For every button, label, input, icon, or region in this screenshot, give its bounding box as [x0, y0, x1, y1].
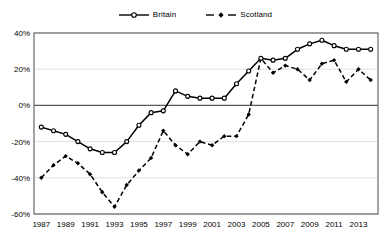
x-axis-label: 1991 — [81, 220, 99, 229]
data-point-marker — [137, 123, 141, 127]
y-axis-label: 40% — [14, 29, 30, 38]
data-point-marker — [113, 150, 117, 154]
x-axis-label: 2009 — [301, 220, 319, 229]
grid-lines — [34, 33, 378, 214]
y-axis-label: 0% — [18, 101, 30, 110]
data-point-marker — [222, 96, 226, 100]
data-point-marker — [247, 69, 251, 73]
data-point-marker — [320, 38, 324, 42]
data-point-marker — [125, 140, 129, 144]
x-axis-tick-labels: 1987198919911993199519971999200120032005… — [32, 220, 368, 229]
data-point-marker — [271, 58, 275, 62]
plot-border — [34, 33, 378, 214]
data-point-marker — [235, 82, 239, 86]
data-point-marker — [186, 94, 190, 98]
y-axis-label: 20% — [14, 65, 30, 74]
data-point-marker — [283, 56, 287, 60]
y-axis-label: -20% — [11, 138, 30, 147]
data-point-marker — [198, 96, 202, 100]
x-axis-label: 2003 — [228, 220, 246, 229]
x-axis-label: 1987 — [32, 220, 50, 229]
x-axis-label: 1995 — [130, 220, 148, 229]
data-point-marker — [356, 47, 360, 51]
data-point-marker — [308, 42, 312, 46]
x-axis-label: 2007 — [276, 220, 294, 229]
data-point-marker — [210, 143, 214, 147]
data-point-marker — [344, 47, 348, 51]
series-scotland — [39, 56, 373, 209]
x-axis-label: 1993 — [106, 220, 124, 229]
data-point-marker — [64, 132, 68, 136]
data-point-marker — [100, 150, 104, 154]
data-point-marker — [76, 140, 80, 144]
data-point-marker — [369, 47, 373, 51]
data-point-marker — [149, 111, 153, 115]
x-axis-label: 2001 — [203, 220, 221, 229]
data-point-marker — [332, 44, 336, 48]
series-britain — [39, 38, 372, 154]
x-axis-label: 2011 — [325, 220, 343, 229]
x-axis-label: 1989 — [57, 220, 75, 229]
x-axis-label: 1997 — [154, 220, 172, 229]
y-axis-label: -60% — [11, 210, 30, 219]
plot-frame — [34, 33, 378, 214]
x-axis-label: 2005 — [252, 220, 270, 229]
data-point-marker — [295, 47, 299, 51]
series-line-scotland — [41, 58, 370, 206]
data-point-marker — [210, 96, 214, 100]
data-point-marker — [332, 58, 336, 62]
x-axis-label: 1999 — [179, 220, 197, 229]
line-chart-plot: 40%20%0%-20%-40%-60% 1987198919911993199… — [0, 0, 391, 244]
y-axis-tick-labels: 40%20%0%-20%-40%-60% — [11, 29, 30, 219]
data-point-marker — [39, 125, 43, 129]
y-axis-label: -40% — [11, 174, 30, 183]
data-point-marker — [174, 89, 178, 93]
chart-container: Britain Scotland 40%20%0%-20%-40%-60% 19… — [0, 0, 391, 244]
data-point-marker — [52, 129, 56, 133]
series-line-britain — [41, 40, 370, 152]
data-point-marker — [88, 147, 92, 151]
data-point-marker — [283, 63, 287, 67]
data-point-marker — [259, 56, 263, 60]
data-point-marker — [161, 109, 165, 113]
x-axis-label: 2013 — [350, 220, 368, 229]
